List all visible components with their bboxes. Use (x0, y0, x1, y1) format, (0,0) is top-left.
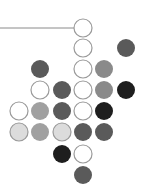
circle-dark-r5-c3 (74, 123, 92, 141)
circle-dark-r3-c2 (53, 81, 71, 99)
circle-dark-r2-c1 (31, 60, 49, 78)
circle-open-r4-c0 (10, 102, 28, 120)
circle-black-r3-c5 (117, 81, 135, 99)
circle-dark-r5-c4 (95, 123, 113, 141)
circle-open-r2-c3 (74, 60, 92, 78)
circle-open-r0-c3 (74, 19, 92, 37)
circle-open-r1-c3 (74, 39, 92, 57)
circle-very_light-r5-c2 (53, 123, 71, 141)
circle-open-r6-c3 (74, 145, 92, 163)
circle-light-r4-c1 (31, 102, 49, 120)
circle-dark-r1-c5 (117, 39, 135, 57)
circle-very_light-r5-c0 (10, 123, 28, 141)
circle-dark-r4-c2 (53, 102, 71, 120)
circle-grid-diagram (0, 0, 148, 196)
circle-dark-r7-c3 (74, 166, 92, 184)
circle-light-r5-c1 (31, 123, 49, 141)
circle-open-r3-c1 (31, 81, 49, 99)
circle-black-r4-c4 (95, 102, 113, 120)
circle-medium-r2-c4 (95, 60, 113, 78)
circle-open-r3-c3 (74, 81, 92, 99)
circle-grid (10, 19, 135, 184)
circle-medium-r3-c4 (95, 81, 113, 99)
circle-open-r4-c3 (74, 102, 92, 120)
circle-black-r6-c2 (53, 145, 71, 163)
